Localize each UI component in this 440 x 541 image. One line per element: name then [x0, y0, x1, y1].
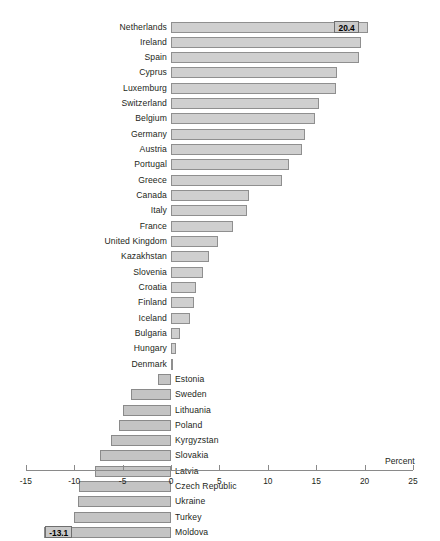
bar — [171, 343, 176, 354]
x-axis-tick-label: -10 — [68, 476, 80, 486]
bar-row: Greece — [0, 174, 440, 189]
value-label: -13.1 — [45, 526, 72, 538]
bar-row: Sweden — [0, 388, 440, 403]
bar-row: Kazakhstan — [0, 250, 440, 265]
bar-row: Luxemburg — [0, 82, 440, 97]
bar-row: Austria — [0, 143, 440, 158]
bar-row: Netherlands20.4 — [0, 21, 440, 36]
bar — [171, 67, 337, 78]
category-label: Germany — [131, 128, 167, 141]
bar — [171, 205, 247, 216]
bar — [171, 297, 194, 308]
bar-row: United Kingdom — [0, 235, 440, 250]
category-label: United Kingdom — [104, 235, 167, 248]
bar — [171, 144, 302, 155]
bar — [171, 251, 209, 262]
category-label: Croatia — [139, 281, 167, 294]
bar-row: Kyrgyzstan — [0, 434, 440, 449]
category-label: Estonia — [175, 373, 204, 386]
bar — [171, 190, 249, 201]
x-axis-line — [26, 470, 413, 471]
category-label: Switzerland — [121, 97, 167, 110]
x-axis-tick — [268, 465, 269, 470]
bar-row: Poland — [0, 419, 440, 434]
bar-row: Iceland — [0, 312, 440, 327]
category-label: Poland — [175, 419, 202, 432]
bar — [171, 129, 305, 140]
bar-row: Belgium — [0, 112, 440, 127]
bar — [111, 435, 171, 446]
category-label: Ukraine — [175, 495, 205, 508]
category-label: Luxemburg — [123, 82, 167, 95]
bar — [171, 83, 336, 94]
bar — [171, 328, 180, 339]
category-label: Czech Republic — [175, 480, 237, 493]
bar — [171, 282, 196, 293]
bar-row: Bulgaria — [0, 327, 440, 342]
category-label: Lithuania — [175, 404, 211, 417]
category-label: Turkey — [175, 511, 202, 524]
bar-row: Ireland — [0, 36, 440, 51]
bar — [171, 267, 203, 278]
value-label: 20.4 — [334, 21, 358, 33]
bar — [95, 466, 171, 477]
bar-row: Cyprus — [0, 66, 440, 81]
bar — [171, 221, 233, 232]
category-label: Kazakhstan — [121, 250, 167, 263]
x-axis-tick-label: -5 — [119, 476, 126, 486]
bar — [119, 420, 171, 431]
bar-row: Italy — [0, 204, 440, 219]
category-label: Iceland — [139, 312, 167, 325]
bar — [171, 236, 218, 247]
x-axis-tick-label: 20 — [360, 476, 369, 486]
category-label: Portugal — [134, 158, 167, 171]
category-label: Canada — [136, 189, 167, 202]
category-label: Cyprus — [139, 66, 167, 79]
x-axis-tick — [123, 465, 124, 470]
x-axis-tick — [26, 465, 27, 470]
category-label: Kyrgyzstan — [175, 434, 219, 447]
x-axis-tick — [365, 465, 366, 470]
bar-row: Hungary — [0, 342, 440, 357]
category-label: Latvia — [175, 465, 199, 478]
bar-row: Lithuania — [0, 404, 440, 419]
bar-row: Canada — [0, 189, 440, 204]
bar — [171, 359, 173, 370]
bar — [171, 98, 319, 109]
x-axis-tick — [74, 465, 75, 470]
bar-row: Switzerland — [0, 97, 440, 112]
bar-row: Germany — [0, 128, 440, 143]
bar-row: Moldova-13.1 — [0, 526, 440, 541]
category-label: Denmark — [131, 358, 167, 371]
x-axis-tick — [219, 465, 220, 470]
bar-row: Croatia — [0, 281, 440, 296]
bar — [171, 37, 361, 48]
category-label: Netherlands — [120, 21, 167, 34]
x-axis-tick-label: 0 — [169, 476, 174, 486]
x-axis-tick-label: 15 — [312, 476, 321, 486]
x-axis-title: Percent — [385, 456, 415, 466]
bar — [171, 175, 282, 186]
bar-row: Turkey — [0, 511, 440, 526]
bar — [100, 450, 171, 461]
bar-row: Ukraine — [0, 495, 440, 510]
bar — [123, 405, 171, 416]
category-label: Sweden — [175, 388, 207, 401]
category-label: Moldova — [175, 526, 208, 539]
category-label: Spain — [145, 51, 167, 64]
category-label: Greece — [138, 174, 167, 187]
bar-row: Finland — [0, 296, 440, 311]
bar-row: Slovenia — [0, 266, 440, 281]
bar-row: France — [0, 220, 440, 235]
bar — [171, 52, 359, 63]
bar-row: Denmark — [0, 358, 440, 373]
bar — [78, 496, 171, 507]
x-axis-tick-label: 25 — [408, 476, 417, 486]
category-label: Bulgaria — [135, 327, 167, 340]
bar-row: Slovakia — [0, 449, 440, 464]
category-label: Slovenia — [133, 266, 167, 279]
category-label: Belgium — [135, 112, 167, 125]
bar-row: Portugal — [0, 158, 440, 173]
bar-row: Spain — [0, 51, 440, 66]
